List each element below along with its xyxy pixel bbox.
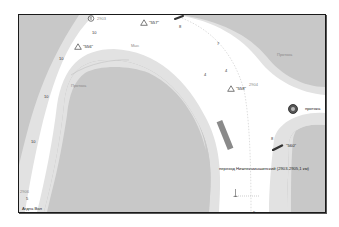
place-label-protoka-left: Протока: [71, 84, 86, 88]
ship-marker-icon[interactable]: [272, 144, 284, 151]
buoy-triangle-icon[interactable]: [140, 19, 148, 26]
place-label-protoka-edge: протока: [305, 107, 320, 111]
place-label-bottom-left: Агдна Вол: [22, 207, 42, 211]
crossing-label: переход Нижнекамышинский (2903-2905,1 км…: [219, 167, 309, 171]
km-marker-2903: 2903: [97, 17, 106, 21]
buoy-label-558: "558": [236, 87, 246, 91]
km-marker-2904: 2904: [249, 83, 258, 87]
depth-sounding: 8: [271, 137, 273, 141]
buoy-label-556: "556": [83, 45, 93, 49]
map-viewport[interactable]: 2903 2904 2906 "556" "557" "558" "560" П…: [18, 14, 326, 213]
buoy-label-557: "557": [149, 21, 159, 25]
river-chart: [19, 15, 325, 212]
buoy-triangle-icon[interactable]: [227, 85, 235, 92]
info-circle-icon[interactable]: [87, 15, 95, 22]
depth-sounding: 8: [179, 25, 181, 29]
depth-sounding: 7: [217, 42, 219, 46]
crossing-sign-icon: [233, 189, 238, 198]
depth-sounding: 9: [253, 211, 255, 213]
depth-sounding: 10: [92, 31, 96, 35]
place-label-mys: Мыс: [131, 44, 139, 48]
depth-sounding: 10: [59, 57, 63, 61]
depth-sounding: 4: [225, 69, 227, 73]
anchor-marker-icon[interactable]: [174, 15, 184, 20]
light-beacon-icon[interactable]: [287, 103, 299, 115]
buoy-label-560: "560": [286, 144, 296, 148]
depth-sounding: 10: [44, 95, 48, 99]
buoy-triangle-icon[interactable]: [74, 43, 82, 50]
km-marker-2906: 2906: [20, 190, 29, 194]
place-label-protoka-right: Протока: [277, 53, 292, 57]
depth-sounding: 5: [26, 197, 28, 201]
depth-sounding: 10: [31, 140, 35, 144]
depth-sounding: 4: [204, 73, 206, 77]
